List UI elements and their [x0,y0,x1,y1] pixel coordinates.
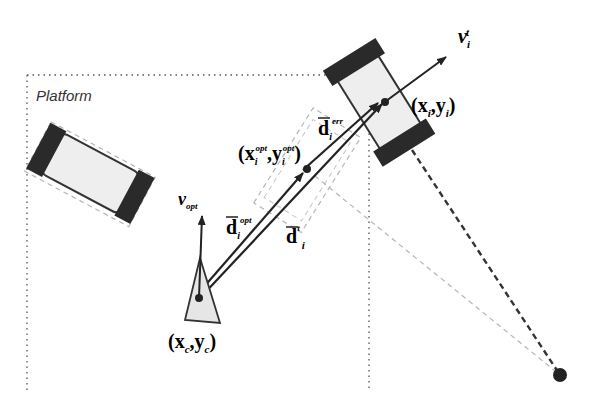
d-t-label: dti [286,223,306,251]
optimal-position-label: (xiopt,yiopt) [238,142,301,167]
d-t-vector [200,104,382,298]
target-position-label: (xi,yi) [411,94,455,119]
parked-vehicle [25,122,155,227]
ghost-projection-line [315,176,560,375]
platform-label: Platform [36,87,92,104]
camera-point [195,294,203,302]
optimal-point [303,165,311,173]
svg-text:dti: dti [286,223,306,251]
d-err-vector [303,103,378,170]
v-target-label: vit [458,25,471,50]
camera-position-label: (xc,yc) [168,330,216,355]
diagram-canvas: Platform vit (xi,yi) dierr [0,0,589,402]
v-opt-label: vopt [178,189,198,211]
target-point [381,98,389,106]
far-point [553,368,567,382]
camera-icon [185,258,220,323]
target-projection-line [412,150,560,375]
